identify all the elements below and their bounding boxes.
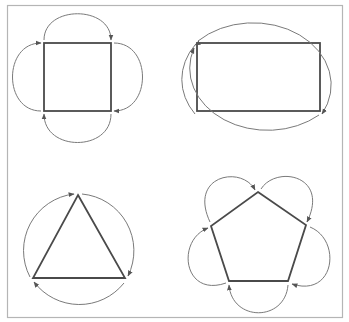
polygon-traversal-diagram [0,0,349,322]
square-shape [44,43,111,111]
panel-rectangle [182,23,331,130]
ellipse-arc-top [198,23,331,114]
ellipse-arc-bottom [190,48,319,130]
triangle-shape [33,195,125,278]
rectangle-arc-upper [182,45,195,114]
panel-square [13,14,143,143]
square-arc-top [44,14,111,40]
pentagon-shape [211,192,306,281]
triangle-arc-bottom [34,282,124,305]
rectangle-shape [197,43,320,111]
panel-pentagon [188,176,330,312]
triangle-arc-left [24,194,74,277]
triangle-arc-right [82,194,134,276]
square-arc-left [13,43,42,111]
pentagon-arc-right [292,227,330,286]
panel-triangle [24,194,134,305]
square-arc-bottom [44,114,111,143]
square-arc-right [114,43,143,111]
pentagon-arc-bottom [229,285,288,313]
